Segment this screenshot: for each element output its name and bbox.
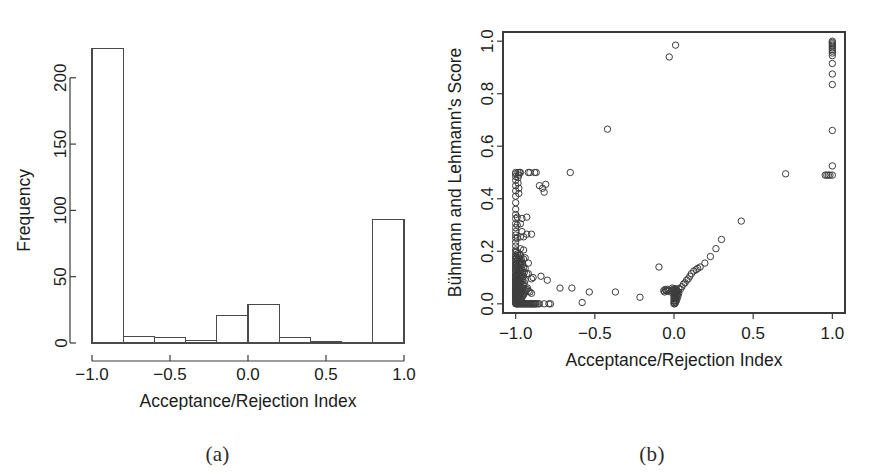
x-axis-tick-label: 1.0 (821, 324, 845, 343)
x-axis-title: Acceptance/Rejection Index (140, 391, 357, 410)
x-axis-title: Acceptance/Rejection Index (566, 350, 783, 370)
histogram-bar (342, 343, 373, 344)
x-axis-tick-label: 0.0 (236, 365, 260, 384)
histogram-bar (186, 340, 217, 343)
histogram-bar (154, 338, 185, 343)
scatter-point (557, 285, 563, 291)
y-axis-tick-label: 0.0 (479, 292, 498, 316)
histogram-bar (123, 336, 154, 343)
scatter-point (702, 260, 708, 266)
scatter-point (666, 54, 672, 60)
scatter-point (512, 200, 518, 206)
x-axis-tick-label: −0.5 (153, 365, 187, 384)
scatter-point (829, 163, 835, 169)
x-axis-tick-label: 0.5 (314, 365, 338, 384)
scatter-point (672, 42, 678, 48)
scatter-point (604, 126, 610, 132)
plot-frame (503, 32, 845, 313)
histogram-bar (279, 338, 310, 343)
scatter-point (718, 236, 724, 242)
figure-root: 050100150200Frequency−1.0−0.50.00.51.0Ac… (0, 0, 869, 475)
histogram-bar (310, 342, 341, 343)
y-axis-tick-label: 100 (52, 196, 71, 224)
x-axis-tick-label: 0.5 (741, 324, 765, 343)
scatter-point (586, 289, 592, 295)
panel-a-caption: (a) (0, 442, 435, 467)
x-axis-tick-label: −1.0 (75, 365, 109, 384)
scatter-point (567, 169, 573, 175)
scatter-point (528, 231, 534, 237)
histogram-bar (217, 315, 248, 343)
x-axis-tick-label: 1.0 (392, 365, 416, 384)
panel-b-caption: (b) (435, 442, 869, 467)
y-axis-tick-label: 150 (52, 130, 71, 158)
y-axis-title: Bühmann and Lehmann's Score (445, 48, 465, 297)
scatter-point (829, 81, 835, 87)
y-axis-tick-label: 200 (52, 64, 71, 92)
y-axis-tick-label: 1.0 (479, 29, 498, 53)
histogram-bar (373, 220, 404, 343)
scatter-point (829, 60, 835, 66)
x-axis-tick-label: 0.0 (662, 324, 686, 343)
y-axis-tick-label: 0.4 (479, 187, 498, 211)
scatter-point (782, 171, 788, 177)
scatter-point (530, 274, 536, 280)
scatter-point (569, 285, 575, 291)
scatter-point (538, 273, 544, 279)
x-axis-tick-label: −1.0 (499, 324, 533, 343)
y-axis-title: Frequency (14, 169, 34, 252)
y-axis-tick-label: 0.2 (479, 239, 498, 263)
scatter-point (829, 71, 835, 77)
y-axis-tick-label: 0 (52, 338, 71, 347)
y-axis-tick-label: 50 (52, 267, 71, 286)
scatter-point (637, 294, 643, 300)
scatter-plot: 0.00.20.40.60.81.0Bühmann and Lehmann's … (435, 0, 869, 410)
scatter-point (579, 299, 585, 305)
y-axis-tick-label: 0.6 (479, 134, 498, 158)
scatter-point (738, 218, 744, 224)
scatter-point (541, 189, 547, 195)
x-axis-tick-label: −0.5 (578, 324, 612, 343)
scatter-point (713, 245, 719, 251)
scatter-point (544, 277, 550, 283)
histogram-bar (92, 49, 123, 343)
scatter-point (707, 253, 713, 259)
histogram-bars (92, 49, 404, 344)
panel-b-scatter: 0.00.20.40.60.81.0Bühmann and Lehmann's … (435, 0, 869, 475)
scatter-point (829, 127, 835, 133)
histogram-bar (248, 305, 279, 343)
scatter-points (512, 38, 835, 307)
scatter-point (656, 264, 662, 270)
y-axis-tick-label: 0.8 (479, 82, 498, 106)
panel-a-histogram: 050100150200Frequency−1.0−0.50.00.51.0Ac… (0, 0, 435, 475)
scatter-point (612, 289, 618, 295)
histogram-plot: 050100150200Frequency−1.0−0.50.00.51.0Ac… (0, 0, 435, 410)
